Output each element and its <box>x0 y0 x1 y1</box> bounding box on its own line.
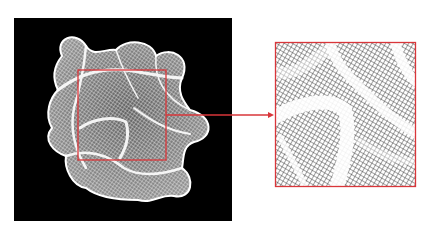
arrow-head-icon <box>268 112 274 118</box>
callout-overlay <box>0 0 430 232</box>
inset-border <box>276 43 416 187</box>
highlight-box <box>78 70 166 160</box>
